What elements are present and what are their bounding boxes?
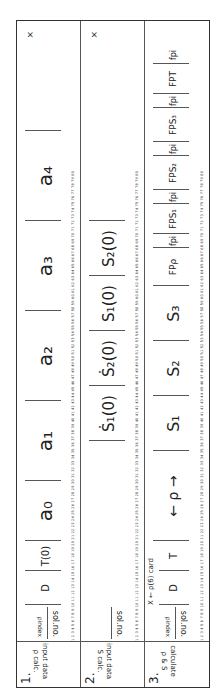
row-fields: sol.no. Ṡ₁(0) Ṡ₂(0) S₁(0) S₂(0) × 1 2 3 … — [81, 21, 144, 641]
sol-no-field: sol.no. — [179, 611, 188, 637]
divider — [175, 607, 176, 639]
field-S1: S₁ — [153, 396, 193, 451]
field-a2: a₂ — [25, 311, 65, 401]
row-label: 1. input data ρ calc. — [17, 641, 80, 687]
field-FPS3: FPS₃ — [153, 108, 193, 142]
row-label-text: input data ρ calc. — [31, 641, 49, 681]
field-S1_0: S₁(0) — [89, 276, 129, 331]
field-rho: ← ρ → — [153, 451, 193, 541]
divider — [89, 220, 125, 221]
rho-index-field: ρindex — [37, 617, 44, 637]
field-S2_0: S₂(0) — [89, 221, 129, 276]
row-fields: sol.no. ρindex X ← ρ(6) card D T ← ρ → S… — [145, 21, 209, 641]
column-scale: 1 2 3 4 5 6 7 8 9 10 11 12 13 14 15 16 1… — [200, 21, 208, 641]
field-D: D — [25, 571, 65, 605]
field-FPrho: FPρ — [153, 248, 193, 286]
row-input-data-s: 2. input data S calc. sol.no. Ṡ₁(0) Ṡ₂(0… — [81, 21, 145, 687]
field-S3: S₃ — [153, 286, 193, 341]
rho-index-field: ρindex — [165, 617, 172, 637]
field-S2dot0: Ṡ₂(0) — [89, 331, 129, 386]
column-scale: 1 2 3 4 5 6 7 8 9 10 11 12 13 14 15 16 1… — [135, 21, 143, 641]
divider — [47, 607, 48, 639]
punch-card-layout: 1. input data ρ calc. sol.no. ρindex D T… — [16, 20, 210, 688]
field-a1: a₁ — [25, 401, 65, 481]
field-fpi-4: fpi — [153, 94, 193, 108]
field-S2: S₂ — [153, 341, 193, 396]
row-label: 2. input data S calc. — [81, 641, 144, 687]
field-a0: a₀ — [25, 481, 65, 541]
sol-no-field: sol.no. — [115, 611, 124, 637]
field-fpi-5: fpi — [153, 46, 193, 64]
field-S1dot0: Ṡ₁(0) — [89, 386, 129, 441]
field-FPS1: FPS₁ — [153, 204, 193, 234]
field-a4: a₄ — [25, 131, 65, 221]
field-T: T — [153, 541, 193, 571]
field-FPT: FPT — [153, 64, 193, 94]
divider — [111, 607, 112, 639]
field-FPS2: FPS₂ — [153, 156, 193, 190]
field-fpi-3: fpi — [153, 142, 193, 156]
field-D: D — [153, 571, 193, 605]
end-mark: × — [25, 31, 35, 39]
field-T0: T(0) — [25, 541, 65, 571]
row-label-text: input data S calc. — [95, 641, 113, 681]
divider — [25, 130, 61, 131]
row-label: 3. calculate ρ & S — [145, 641, 209, 687]
row-input-data-rho: 1. input data ρ calc. sol.no. ρindex D T… — [17, 21, 81, 687]
row-fields: sol.no. ρindex D T(0) a₀ a₁ a₂ a₃ a₄ × 1… — [17, 21, 80, 641]
field-fpi-1: fpi — [153, 234, 193, 248]
sol-no-field: sol.no. — [51, 611, 60, 637]
field-fpi-2: fpi — [153, 190, 193, 204]
column-scale: 1 2 3 4 5 6 7 8 9 10 11 12 13 14 15 16 1… — [71, 21, 79, 641]
row-calculate-rho-s: 3. calculate ρ & S sol.no. ρindex X ← ρ(… — [145, 21, 209, 687]
end-mark: × — [89, 31, 99, 39]
field-a3: a₃ — [25, 221, 65, 311]
row-label-text: calculate ρ & S — [159, 641, 177, 681]
